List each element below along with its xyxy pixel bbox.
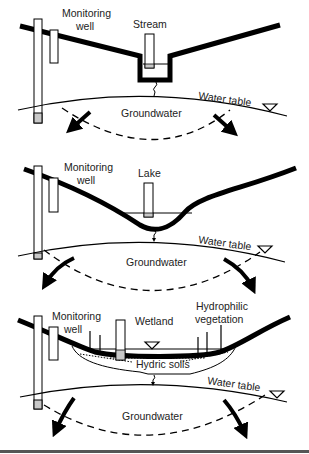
label-wetland: Wetland (135, 315, 173, 327)
flow-arrow-left-icon (72, 112, 90, 128)
label-lake: Lake (138, 167, 161, 179)
bottom-divider (0, 450, 309, 453)
wetland-gauge-screen (116, 350, 125, 360)
label-monitoring: Monitoring (64, 161, 113, 173)
label-well: well (76, 174, 95, 186)
label-groundwater: Groundwater (121, 107, 182, 119)
panel-lake: Monitoring well Lake Water table Groundw… (18, 161, 296, 291)
flow-arrow-right-icon (224, 259, 252, 287)
shallow-monitoring-well (50, 30, 58, 63)
seepage-icon (153, 375, 155, 384)
deep-monitoring-well (34, 19, 42, 123)
seepage-icon (154, 82, 157, 96)
label-water-table: Water table (198, 89, 253, 108)
label-vegetation: vegetation (195, 313, 244, 325)
label-hydrophilic: Hydrophilic (196, 300, 248, 312)
panel-wetland: Monitoring well Wetland Hydrophilic vege… (18, 300, 290, 435)
well-screen (34, 253, 42, 259)
flow-arrow-right-icon (214, 115, 232, 131)
flow-arrow-left-icon (46, 258, 74, 283)
flow-arrow-right-icon (224, 400, 244, 432)
water-table-symbol (258, 246, 272, 253)
label-well: well (63, 323, 82, 335)
shallow-monitoring-well (49, 178, 58, 212)
label-groundwater: Groundwater (126, 256, 187, 268)
label-stream: Stream (133, 18, 167, 30)
label-groundwater: Groundwater (122, 410, 183, 422)
well-screen (34, 400, 42, 409)
stream-gauge-screen (145, 64, 154, 68)
label-hydric-soils: Hydric soils (136, 358, 190, 370)
label-water-table: Water table (207, 374, 262, 393)
deep-monitoring-well (34, 166, 42, 259)
groundwater-diagram: Monitoring well Stream Water table Groun… (0, 0, 309, 454)
lake-gauge-screen (144, 213, 153, 217)
well-screen (34, 113, 42, 123)
label-monitoring: Monitoring (52, 310, 101, 322)
panel-stream: Monitoring well Stream Water table Groun… (18, 7, 287, 140)
shallow-monitoring-well (49, 327, 58, 360)
deep-monitoring-well (34, 316, 42, 409)
water-table-symbol (270, 391, 284, 398)
label-well: well (75, 20, 94, 32)
hydrophilic-vegetation-icon (90, 325, 221, 354)
water-table-symbol (263, 104, 277, 111)
lake-gauge (144, 183, 153, 217)
stream-gauge (145, 34, 154, 68)
label-monitoring: Monitoring (62, 7, 111, 19)
water-table-symbol (145, 342, 159, 349)
